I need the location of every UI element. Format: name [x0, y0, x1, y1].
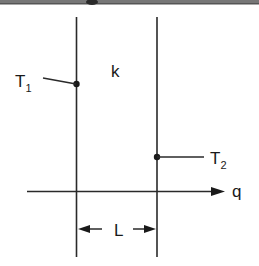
heat-flow-arrow	[27, 187, 225, 196]
heat-flow-label: q	[232, 182, 241, 201]
top-border-band	[0, 0, 259, 5]
thickness-dimension-right-arrow	[133, 225, 156, 233]
t1-leader-line	[43, 78, 76, 84]
t2-label: T2	[210, 149, 227, 171]
conductivity-label: k	[111, 62, 120, 81]
thickness-dimension-left-arrow	[78, 225, 102, 233]
t1-label: T1	[15, 72, 32, 94]
thickness-label: L	[114, 221, 123, 240]
heat-conduction-diagram: T1 k T2 q L	[0, 0, 259, 266]
